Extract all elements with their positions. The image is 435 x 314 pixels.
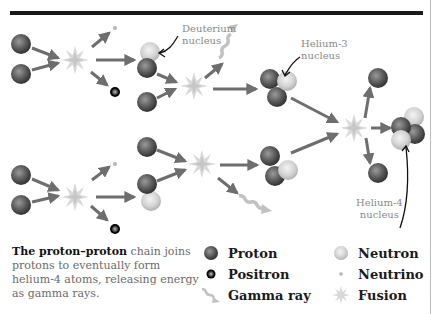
caption-bold: The proton–proton — [12, 245, 127, 258]
proton-sphere-icon — [137, 137, 157, 157]
neutron-sphere-icon — [141, 191, 161, 211]
legend-item-proton: Proton — [200, 243, 277, 263]
proton-sphere-icon — [368, 163, 388, 183]
neutron-sphere-icon — [278, 160, 298, 180]
diagram-frame: Deuterium nucleus Helium-3 nucleus Heliu… — [0, 0, 435, 314]
neutrino-dot-icon — [113, 26, 117, 30]
neutron-sphere-icon — [330, 243, 352, 263]
fusion-starburst-icon — [330, 285, 352, 305]
positron-ring-icon — [110, 224, 120, 234]
legend-item-neutron: Neutron — [330, 243, 419, 263]
helium4-label-line2: nucleus — [356, 209, 403, 221]
fusion-starburst-icon — [61, 46, 89, 74]
neutrino-dot-icon — [330, 264, 352, 284]
fusion-starburst-icon — [340, 114, 368, 142]
helium3-label-line2: nucleus — [301, 50, 348, 62]
legend-label: Positron — [228, 267, 289, 282]
proton-sphere-icon — [11, 165, 31, 185]
neutron-sphere-icon — [391, 130, 411, 150]
proton-sphere-icon — [137, 174, 157, 194]
gamma-ray-wave-icon — [200, 285, 222, 305]
legend-label: Fusion — [358, 288, 407, 303]
deuterium-nucleus-label: Deuterium nucleus — [182, 23, 236, 47]
proton-sphere-icon — [11, 195, 31, 215]
legend-item-fusion: Fusion — [330, 285, 407, 305]
proton-sphere-icon — [200, 243, 222, 263]
proton-sphere-icon — [260, 146, 280, 166]
helium3-nucleus-label: Helium-3 nucleus — [301, 38, 348, 62]
legend-label: Proton — [228, 246, 277, 261]
proton-sphere-icon — [137, 58, 157, 78]
fusion-starburst-icon — [180, 72, 208, 100]
deuterium-label-line1: Deuterium — [182, 23, 236, 35]
proton-sphere-icon — [137, 92, 157, 112]
helium4-label-line1: Helium-4 — [356, 197, 403, 209]
legend-label: Neutron — [358, 246, 419, 261]
proton-sphere-icon — [11, 64, 31, 84]
legend: Proton Neutron Positron Neutrino Gamma r… — [200, 243, 430, 309]
neutrino-dot-icon — [113, 162, 117, 166]
helium4-nucleus-label: Helium-4 nucleus — [356, 197, 403, 221]
positron-ring-icon — [200, 264, 222, 284]
proton-sphere-icon — [368, 68, 388, 88]
caption: The proton–proton chain joins protons to… — [12, 245, 202, 301]
legend-label: Gamma ray — [228, 288, 311, 303]
legend-item-gamma-ray: Gamma ray — [200, 285, 311, 305]
legend-item-neutrino: Neutrino — [330, 264, 424, 284]
fusion-starburst-icon — [188, 150, 216, 178]
deuterium-label-line2: nucleus — [182, 35, 236, 47]
proton-sphere-icon — [11, 34, 31, 54]
helium3-label-line1: Helium-3 — [301, 38, 348, 50]
gamma-ray-wave-icon — [239, 196, 272, 214]
legend-label: Neutrino — [358, 267, 424, 282]
positron-ring-icon — [110, 87, 120, 97]
fusion-starburst-icon — [61, 183, 89, 211]
proton-sphere-icon — [260, 69, 280, 89]
legend-item-positron: Positron — [200, 264, 289, 284]
